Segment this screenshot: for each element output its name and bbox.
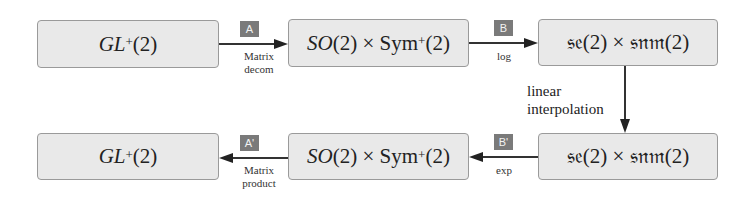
edge-vertical-line — [624, 66, 626, 120]
edge-b-prime-label-line1: exp — [480, 164, 528, 177]
node-label-sup: + — [126, 147, 133, 163]
node-label-sup: + — [418, 33, 425, 49]
edge-a-tag: A — [240, 21, 259, 37]
edge-b-label-line1: log — [480, 50, 528, 63]
node-label: 𝔰𝔢(2) × 𝔰𝔫𝔪(2) — [567, 144, 689, 169]
node-label-suffix: (2) — [425, 144, 450, 169]
node-label-suffix: (2) — [425, 31, 450, 56]
edge-b-prime-line — [482, 156, 538, 158]
node-label-so: SO — [307, 31, 333, 56]
edge-vertical-label-line1: linear — [527, 82, 604, 100]
node-so2-sym-bottom: SO(2) × Sym+(2) — [288, 133, 469, 180]
node-so2-sym-top: SO(2) × Sym+(2) — [288, 19, 469, 67]
edge-vertical-label-line2: interpolation — [527, 100, 604, 118]
arrow-right-icon — [274, 39, 288, 49]
node-se2-snm2-bottom: 𝔰𝔢(2) × 𝔰𝔫𝔪(2) — [538, 133, 718, 180]
edge-a-label-line2: decom — [225, 63, 293, 76]
node-label-main: GL — [99, 144, 126, 169]
edge-vertical-label: linear interpolation — [527, 82, 604, 118]
edge-a-prime-label-line2: product — [225, 177, 293, 190]
node-gl-plus-top: GL+(2) — [37, 20, 219, 68]
edge-a-label-line1: Matrix — [225, 50, 293, 63]
arrow-down-icon — [620, 119, 630, 133]
node-label-sym: (2) × Sym — [333, 31, 418, 56]
arrow-left-icon — [469, 152, 483, 162]
edge-a-line — [219, 43, 275, 45]
arrow-right-icon — [524, 38, 538, 48]
edge-a-prime-line — [232, 157, 288, 159]
node-label-main: GL — [99, 32, 126, 57]
node-label-sym: (2) × Sym — [333, 144, 418, 169]
edge-a-label: Matrix decom — [225, 50, 293, 76]
node-label: 𝔰𝔢(2) × 𝔰𝔫𝔪(2) — [567, 30, 689, 55]
node-label-sup: + — [126, 34, 133, 50]
node-label-sup: + — [418, 147, 425, 163]
arrow-left-icon — [219, 153, 233, 163]
edge-b-tag: B — [494, 20, 513, 36]
edge-b-prime-tag: B' — [494, 134, 513, 150]
edge-b-label: log — [480, 50, 528, 63]
edge-a-prime-tag: A' — [240, 135, 259, 151]
edge-a-prime-label-line1: Matrix — [225, 164, 293, 177]
node-gl-plus-bottom: GL+(2) — [37, 133, 219, 180]
edge-a-prime-label: Matrix product — [225, 164, 293, 190]
node-label-suffix: (2) — [133, 32, 158, 57]
edge-b-line — [469, 42, 525, 44]
node-label-suffix: (2) — [133, 144, 158, 169]
node-label-so: SO — [307, 144, 333, 169]
edge-b-prime-label: exp — [480, 164, 528, 177]
node-se2-snm2-top: 𝔰𝔢(2) × 𝔰𝔫𝔪(2) — [538, 19, 718, 66]
